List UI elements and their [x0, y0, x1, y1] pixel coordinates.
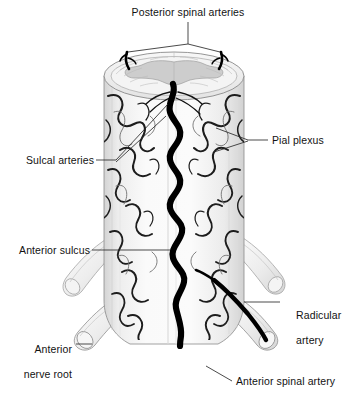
- label-anterior-nerve-root-line2: nerve root: [24, 368, 72, 380]
- label-anterior-nerve-root-line1: Anterior: [34, 343, 72, 355]
- label-anterior-spinal-artery: Anterior spinal artery: [236, 375, 347, 388]
- label-anterior-nerve-root: Anterior nerve root: [0, 330, 72, 393]
- label-radicular-artery: Radicular artery: [284, 296, 346, 359]
- label-posterior-spinal-arteries: Posterior spinal arteries: [108, 6, 268, 19]
- label-radicular-artery-line1: Radicular: [296, 309, 341, 321]
- label-anterior-sulcus: Anterior sulcus: [0, 244, 90, 257]
- leader-posterior-spinal-arteries-right: [188, 44, 220, 52]
- leader-posterior-spinal-arteries-left: [128, 44, 188, 52]
- spinal-cord-arterial-supply-figure: Posterior spinal arteries Sulcal arterie…: [0, 0, 347, 395]
- label-pial-plexus: Pial plexus: [272, 134, 346, 147]
- label-radicular-artery-line2: artery: [296, 334, 323, 346]
- label-sulcal-arteries: Sulcal arteries: [4, 154, 94, 167]
- leader-anterior-spinal-artery: [206, 366, 232, 381]
